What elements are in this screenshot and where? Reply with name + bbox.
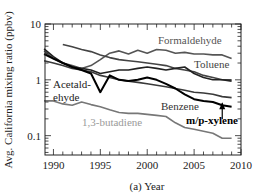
x-tick-label: 2005 bbox=[183, 159, 206, 171]
chart: 199019952000200520100.1110 Avg. Californ… bbox=[0, 0, 258, 196]
annotation-butadiene: 1,3-butadiene bbox=[82, 116, 142, 128]
x-tick-label: 2010 bbox=[230, 159, 253, 171]
annotation-benzene: Benzene bbox=[161, 100, 199, 112]
y-axis-label: Avg. California mixing ratio (ppbv) bbox=[2, 11, 15, 168]
annotation-toluene: Toluene bbox=[194, 58, 229, 70]
x-tick-label: 1990 bbox=[42, 159, 65, 171]
y-tick-label: 1 bbox=[36, 74, 42, 86]
annotation-formaldehyde: Formaldehyde bbox=[158, 34, 222, 46]
x-tick-label: 1995 bbox=[89, 159, 112, 171]
x-axis-label: (a) Year bbox=[130, 180, 165, 193]
x-tick-label: 2000 bbox=[136, 159, 159, 171]
annotation-mp-xylene: m/p-xylene bbox=[186, 114, 238, 126]
y-tick-label: 10 bbox=[30, 18, 42, 30]
annotation-acetaldehyde-2: ehyde bbox=[53, 91, 79, 103]
annotation-acetaldehyde-1: Acetald- bbox=[53, 78, 91, 90]
y-tick-label: 0.1 bbox=[27, 130, 41, 142]
